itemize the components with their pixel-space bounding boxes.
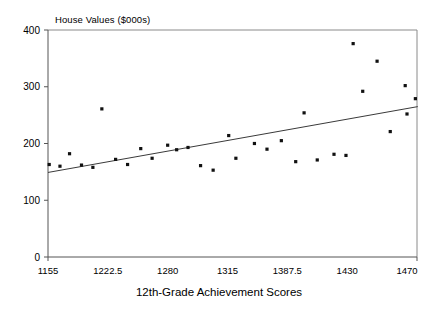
data-point: [294, 160, 297, 163]
data-point: [405, 112, 408, 115]
data-point: [361, 90, 364, 93]
ticks-group: [44, 30, 417, 261]
data-point: [265, 148, 268, 151]
y-tick-label: 100: [23, 195, 40, 206]
data-point: [414, 97, 417, 100]
x-tick-label: 1280: [157, 265, 178, 276]
regression-trend-line: [48, 107, 418, 173]
chart-canvas: 0100200300400 11551222.5128013151387.514…: [0, 0, 438, 312]
data-point: [302, 111, 305, 114]
x-axis-title: 12th-Grade Achievement Scores: [0, 286, 438, 298]
data-point: [332, 153, 335, 156]
data-point: [316, 158, 319, 161]
axes-group: [48, 30, 417, 257]
data-point: [139, 147, 142, 150]
data-point: [234, 157, 237, 160]
data-point: [280, 139, 283, 142]
data-point: [80, 163, 83, 166]
data-point: [166, 144, 169, 147]
data-point: [126, 163, 129, 166]
scatter-chart-figure: House Values ($000s) 0100200300400 11551…: [0, 0, 438, 312]
data-point: [253, 142, 256, 145]
y-tick-label: 300: [23, 81, 40, 92]
data-point: [199, 164, 202, 167]
data-points-group: [48, 42, 417, 172]
x-tick-label: 1470: [396, 265, 417, 276]
x-tick-label: 1430: [337, 265, 358, 276]
data-point: [68, 152, 71, 155]
x-tick-labels-group: 11551222.5128013151387.514301470: [38, 265, 418, 276]
data-point: [151, 157, 154, 160]
data-point: [186, 146, 189, 149]
data-point: [100, 107, 103, 110]
y-tick-labels-group: 0100200300400: [23, 25, 40, 263]
data-point: [48, 163, 51, 166]
data-point: [91, 166, 94, 169]
x-tick-label: 1387.5: [273, 265, 302, 276]
data-point: [58, 165, 61, 168]
x-tick-label: 1222.5: [93, 265, 122, 276]
data-point: [114, 158, 117, 161]
y-tick-label: 200: [23, 138, 40, 149]
y-tick-label: 400: [23, 25, 40, 36]
data-point: [227, 134, 230, 137]
y-tick-label: 0: [34, 252, 40, 263]
data-point: [389, 130, 392, 133]
trend-line-group: [48, 107, 418, 173]
x-tick-label: 1155: [38, 265, 58, 276]
data-point: [375, 60, 378, 63]
x-tick-label: 1315: [217, 265, 238, 276]
data-point: [175, 148, 178, 151]
data-point: [344, 154, 347, 157]
data-point: [352, 42, 355, 45]
data-point: [404, 84, 407, 87]
data-point: [212, 169, 215, 172]
